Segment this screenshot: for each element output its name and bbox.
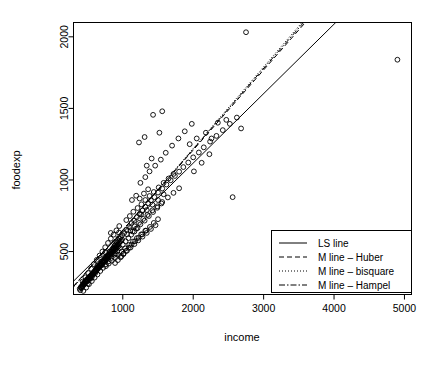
x-tick-label: 1000: [111, 302, 135, 314]
y-tick-label: 2000: [59, 25, 71, 49]
y-tick-label: 1000: [59, 168, 71, 192]
scatter-plot-canvas: 500100015002000 10002000300040005000 inc…: [0, 0, 432, 368]
chart-legend: LS lineM line – HuberM line – bisquareM …: [272, 231, 412, 293]
legend-entry-label: M line – Hampel: [318, 280, 390, 291]
y-tick-label: 1500: [59, 97, 71, 121]
y-tick-label: 500: [59, 243, 71, 261]
x-axis-title: income: [224, 331, 259, 343]
x-tick-label: 4000: [322, 302, 346, 314]
x-tick-label: 2000: [182, 302, 206, 314]
y-axis-title: foodexp: [10, 150, 22, 189]
legend-entry-label: LS line: [318, 238, 349, 249]
x-tick-label: 3000: [252, 302, 276, 314]
legend-entry-label: M line – Huber: [318, 252, 384, 263]
legend-entry-label: M line – bisquare: [318, 266, 395, 277]
engel-regression-figure: 500100015002000 10002000300040005000 inc…: [0, 0, 432, 368]
x-tick-label: 5000: [393, 302, 417, 314]
